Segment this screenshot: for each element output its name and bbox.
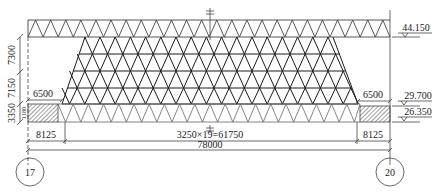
axis-label-17: 17 (25, 167, 35, 178)
hatched-support-left (28, 104, 58, 122)
elevation-29700: 29.700 (404, 90, 432, 101)
elevation-26350: 26.350 (404, 106, 432, 117)
bottom-lattice-row (58, 104, 360, 122)
top-truss (28, 20, 390, 37)
dim-6500-left: 6500 (33, 88, 53, 99)
hatched-support-right (360, 106, 390, 122)
triangular-lattice (62, 37, 358, 104)
elevation-44150: 44.150 (402, 22, 430, 33)
axis-label-20: 20 (385, 167, 395, 178)
dim-8125-left: 8125 (36, 129, 56, 140)
dim-6500-right: 6500 (363, 89, 383, 100)
dim-1180: 1180 (21, 107, 27, 119)
truss-elevation-drawing: 7300 7150 3350 1180 6500 6500 8125 8125 … (0, 0, 439, 194)
dim-8125-right: 8125 (363, 129, 383, 140)
dim-overall: 78000 (198, 139, 223, 150)
dim-7150: 7150 (6, 78, 17, 98)
dim-7300: 7300 (6, 45, 17, 65)
dim-3350: 3350 (6, 103, 17, 123)
